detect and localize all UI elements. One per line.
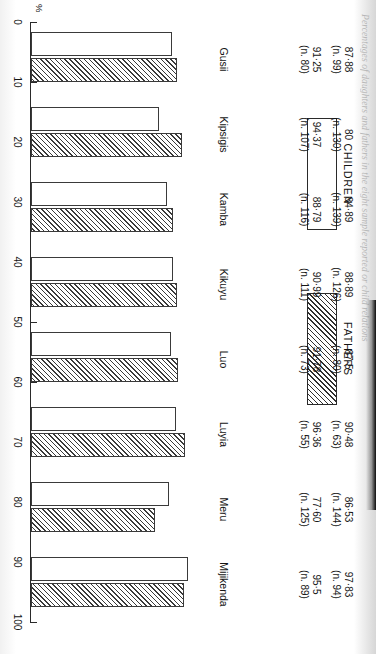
children-value: 88·89 [343,272,354,298]
fathers-value: 88·79 [311,197,322,223]
children-sample-size: (n. 80) [331,334,343,386]
bar-group-luo [31,328,191,392]
children-value-cell: 84·89(n. 139) [331,184,354,236]
axis-tick-label: 100 [12,609,23,635]
bar-children-kikuyu [31,257,173,281]
bar-group-kikuyu [31,253,191,317]
children-sample-size: (n. 130) [331,109,343,161]
axis-tick-label: 80 [12,489,23,515]
children-sample-size: (n. 63) [331,409,343,461]
category-label-mijikenda: Mijikenda [218,553,230,617]
axis-tick-label: 10 [12,69,23,95]
bar-group-meru [31,478,191,542]
bar-group-kipsigis [31,103,191,167]
bar-fathers-kipsigis [31,133,182,157]
plot-area: % 1009080706050403020100 [4,0,200,654]
fathers-sample-size: (n. 111) [299,259,311,311]
bar-fathers-gusii [31,58,177,82]
fathers-value: 91·78 [311,347,322,373]
axis-tick-label: 90 [12,549,23,575]
axis-tick-label: 30 [12,189,23,215]
category-label-kipsigis: Kipsigis [218,103,230,167]
children-value-cell: 87·88(n. 99) [331,34,354,86]
children-value-cell: 80(n. 130) [331,109,354,161]
fathers-sample-size: (n. 116) [299,184,311,236]
figure: Percentages of daughters and fathers in … [0,0,376,654]
value-column: 84·89(n. 139)88·79(n. 116) [299,184,354,236]
value-column: 87·88(n. 99)91·25(n. 80) [299,34,354,86]
value-table: 87·88(n. 99)91·25(n. 80)80(n. 130)94·37(… [234,0,354,654]
fathers-value: 96·36 [311,422,322,448]
fathers-sample-size: (n. 125) [299,484,311,536]
fathers-value-cell: 90·99(n. 111) [299,259,322,311]
bar-children-mijikenda [31,557,188,581]
children-value-cell: 88·89(n. 126) [331,259,354,311]
bar-group-gusii [31,28,191,92]
axis-tick [30,622,37,623]
page-rotation-wrapper: Percentages of daughters and fathers in … [0,0,376,654]
fathers-value: 95·5 [311,574,322,594]
children-value-cell: 86·53(n. 144) [331,484,354,536]
bar-children-gusii [31,32,172,56]
fathers-sample-size: (n. 89) [299,559,311,611]
axis-tick-label: 60 [12,369,23,395]
children-value: 87·5 [343,349,354,369]
bar-fathers-meru [31,508,155,532]
bar-fathers-kamba [31,208,173,232]
scanned-figure-page: Percentages of daughters and fathers in … [0,0,376,654]
fathers-sample-size: (n. 73) [299,334,311,386]
children-value: 87·88 [343,47,354,73]
children-value-cell: 90·48(n. 63) [331,409,354,461]
children-value: 97·83 [343,572,354,598]
fathers-value-cell: 91·78(n. 73) [299,334,322,386]
bar-fathers-luo [31,358,178,382]
fathers-value-cell: 95·5(n. 89) [299,559,322,611]
children-sample-size: (n. 144) [331,484,343,536]
children-value: 80 [343,129,354,140]
axis-tick-label: 50 [12,309,23,335]
children-value: 86·53 [343,497,354,523]
bar-children-kamba [31,182,167,206]
fathers-value-cell: 77·60(n. 125) [299,484,322,536]
axis-tick-label: 0 [12,9,23,35]
bar-children-luo [31,332,171,356]
bar-fathers-kikuyu [31,283,177,307]
value-column: 90·48(n. 63)96·36(n. 55) [299,409,354,461]
children-value: 90·48 [343,422,354,448]
bar-children-meru [31,482,169,506]
axis-tick-label: 20 [12,129,23,155]
axis-tick-label: 40 [12,249,23,275]
children-value-cell: 87·5(n. 80) [331,334,354,386]
children-sample-size: (n. 139) [331,184,343,236]
category-label-row: GusiiKipsigisKambaKikuyuLuoLuyiaMeruMiji… [210,0,230,654]
value-column: 80(n. 130)94·37(n. 107) [299,109,354,161]
category-label-kamba: Kamba [218,178,230,242]
bar-group-luyia [31,403,191,467]
value-column: 88·89(n. 126)90·99(n. 111) [299,259,354,311]
fathers-value-cell: 96·36(n. 55) [299,409,322,461]
bar-series-container [31,22,191,622]
fathers-sample-size: (n. 107) [299,109,311,161]
bar-group-kamba [31,178,191,242]
children-value-cell: 97·83(n. 94) [331,559,354,611]
bar-children-kipsigis [31,107,159,131]
axis-unit-label: % [34,4,45,12]
fathers-value: 91·25 [311,47,322,73]
children-sample-size: (n. 99) [331,34,343,86]
category-label-meru: Meru [218,478,230,542]
fathers-value-cell: 88·79(n. 116) [299,184,322,236]
category-label-luyia: Luyia [218,403,230,467]
category-label-gusii: Gusii [218,28,230,92]
bar-group-mijikenda [31,553,191,617]
value-column: 86·53(n. 144)77·60(n. 125) [299,484,354,536]
category-label-kikuyu: Kikuyu [218,253,230,317]
axis-tick-label: 70 [12,429,23,455]
children-value: 84·89 [343,197,354,223]
fathers-value: 90·99 [311,272,322,298]
fathers-value: 94·37 [311,122,322,148]
bar-fathers-mijikenda [31,583,184,607]
children-sample-size: (n. 94) [331,559,343,611]
bar-fathers-luyia [31,433,185,457]
fathers-sample-size: (n. 55) [299,409,311,461]
fathers-value-cell: 94·37(n. 107) [299,109,322,161]
